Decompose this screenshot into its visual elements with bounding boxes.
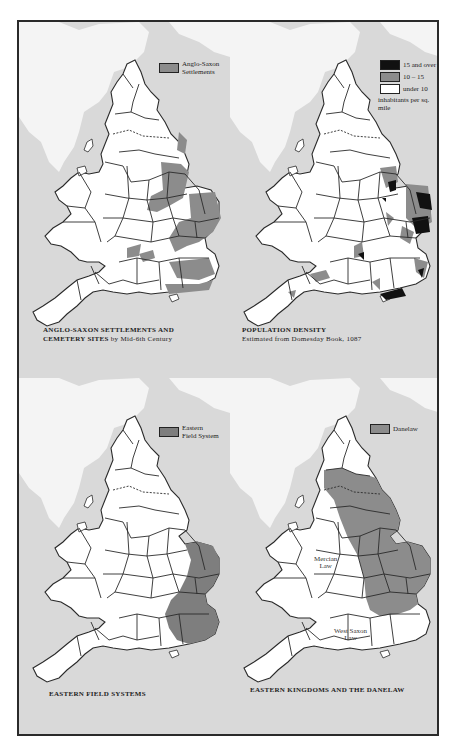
caption-eastern-field-systems: EASTERN FIELD SYSTEMS — [49, 690, 146, 699]
map-label-line2: Law — [344, 634, 356, 642]
legend-label: 10 – 15 — [403, 73, 424, 81]
legend-swatch-danelaw — [370, 424, 390, 434]
legend-swatch-dark — [380, 60, 400, 70]
legend-swatch-settlements — [159, 63, 179, 73]
legend-label-line2: Field System — [182, 432, 219, 440]
caption-title: ANGLO-SAXON SETTLEMENTS AND — [43, 326, 174, 335]
legend: Danelaw — [370, 424, 418, 436]
caption-anglo-saxon: ANGLO-SAXON SETTLEMENTS AND CEMETERY SIT… — [43, 326, 174, 343]
legend: 15 and over 10 – 15 under 10 inhabitants… — [380, 60, 439, 112]
legend-row-15-over: 15 and over — [380, 60, 439, 70]
panel-anglo-saxon-settlements: Anglo-Saxon Settlements ANGLO-SAXON SETT… — [19, 22, 230, 378]
legend-row-10-15: 10 – 15 — [380, 72, 439, 82]
legend-swatch-medium — [380, 72, 400, 82]
legend-row-under-10: under 10 — [380, 84, 439, 94]
caption-subtitle: Estimated from Domesday Book, 1087 — [242, 335, 362, 344]
legend-swatch-light — [380, 84, 400, 94]
legend: Anglo-Saxon Settlements — [159, 60, 219, 78]
panel-population-density: 15 and over 10 – 15 under 10 inhabitants… — [230, 22, 439, 378]
map-sheet-frame: Anglo-Saxon Settlements ANGLO-SAXON SETT… — [17, 20, 439, 736]
caption-title: EASTERN FIELD SYSTEMS — [49, 690, 146, 699]
panel-eastern-field-systems: Eastern Field System EASTERN FIELD SYSTE… — [19, 378, 230, 734]
legend: Eastern Field System — [159, 424, 219, 442]
legend-label-line1: Anglo-Saxon — [182, 60, 219, 68]
caption-title: POPULATION DENSITY — [242, 326, 362, 335]
caption-line2-rest: by Mid-6th Century — [109, 335, 172, 343]
legend-label: under 10 — [403, 85, 428, 93]
legend-label: Anglo-Saxon Settlements — [182, 60, 219, 76]
legend-label: Danelaw — [393, 425, 418, 433]
map-label-west-saxon-law: West Saxon Law — [334, 628, 367, 642]
map-label-mercian-law: Mercian Law — [314, 556, 337, 570]
legend-swatch-field-system — [159, 427, 179, 437]
legend-label: 15 and over — [403, 61, 436, 69]
caption-danelaw: EASTERN KINGDOMS AND THE DANELAW — [250, 686, 405, 695]
legend-label-line2: Settlements — [182, 68, 215, 76]
caption-population-density: POPULATION DENSITY Estimated from Domesd… — [242, 326, 362, 343]
caption-line2-bold: CEMETERY SITES — [43, 335, 109, 343]
legend-label: Eastern Field System — [182, 424, 219, 440]
legend-note: inhabitants per sq. mile — [378, 96, 439, 112]
map-label-line2: Law — [319, 562, 331, 570]
caption-title: EASTERN KINGDOMS AND THE DANELAW — [250, 686, 405, 695]
panel-danelaw: Danelaw Mercian Law West Saxon Law EASTE… — [230, 378, 439, 734]
legend-label-line1: Eastern — [182, 424, 203, 432]
